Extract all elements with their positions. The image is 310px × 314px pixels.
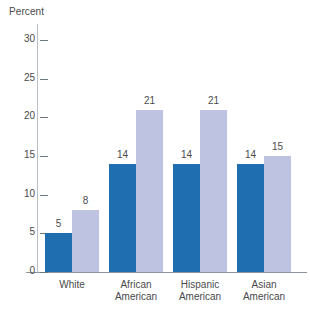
y-axis-tick-label: 15 (24, 149, 35, 160)
category-label-line1: Hispanic (181, 279, 219, 290)
y-axis-tick-mark (40, 233, 48, 234)
category-label-asian-american: AsianAmerican (225, 279, 303, 303)
y-axis-title: Percent (9, 6, 44, 17)
category-label-line2: American (225, 291, 303, 303)
y-axis-tick: 5 (0, 233, 48, 234)
plot-area (38, 24, 306, 272)
y-axis-tick: 20 (0, 117, 48, 118)
y-axis-tick: 30 (0, 40, 48, 41)
y-axis-tick-mark (40, 117, 48, 118)
y-axis-line (37, 24, 38, 273)
y-axis-tick: 25 (0, 79, 48, 80)
category-label-line1: White (59, 279, 85, 290)
y-axis-tick-mark (40, 156, 48, 157)
y-axis-tick-label: 20 (24, 110, 35, 121)
y-axis-tick-label: 0 (29, 265, 35, 276)
category-label-line1: Asian (251, 279, 276, 290)
y-axis-tick-mark (40, 40, 48, 41)
y-axis-tick-label: 30 (24, 33, 35, 44)
y-axis-tick-label: 5 (29, 226, 35, 237)
y-axis-tick-mark (40, 79, 48, 80)
y-axis-tick-label: 25 (24, 72, 35, 83)
y-axis-tick-label: 10 (24, 188, 35, 199)
y-axis-tick: 0 (0, 272, 48, 273)
x-axis-line (26, 272, 307, 273)
y-axis-tick-mark (40, 272, 48, 273)
y-axis-tick: 10 (0, 195, 48, 196)
y-axis-tick: 15 (0, 156, 48, 157)
y-axis-tick-mark (40, 195, 48, 196)
bar-chart: Percent Male Female 051015202530 5814211… (0, 0, 310, 314)
category-label-line1: African (120, 279, 151, 290)
